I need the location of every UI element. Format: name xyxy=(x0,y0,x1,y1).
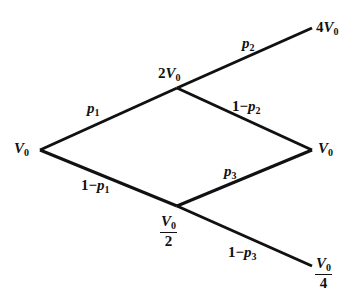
node-up-up-label: 4V0 xyxy=(316,20,339,37)
fraction: V0 2 xyxy=(160,214,177,249)
tree-edges xyxy=(0,0,352,303)
node-down-down-label: V0 4 xyxy=(315,256,332,291)
node-down-label: V0 2 xyxy=(160,214,177,249)
edge-root-up xyxy=(40,88,177,150)
node-root-label: V0 xyxy=(14,141,29,158)
edge-label-p3: p3 xyxy=(224,164,237,181)
edge-label-1-minus-p2: 1−p2 xyxy=(232,99,261,116)
edge-down-middle xyxy=(177,150,312,206)
edge-label-p2: p2 xyxy=(242,36,255,53)
edge-label-1-minus-p1: 1−p1 xyxy=(81,178,110,195)
edge-label-1-minus-p3: 1−p3 xyxy=(228,245,257,262)
fraction: V0 4 xyxy=(315,256,332,291)
node-up-label: 2V0 xyxy=(158,66,181,83)
node-middle-label: V0 xyxy=(318,141,333,158)
edge-label-p1: p1 xyxy=(87,101,100,118)
